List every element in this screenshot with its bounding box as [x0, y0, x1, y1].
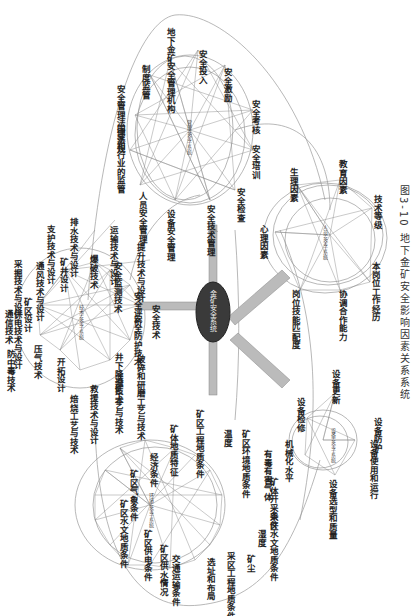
technology-center-label: 技术安全子系统	[78, 305, 83, 340]
node-human-skill-grade: 技术等级	[372, 195, 381, 217]
node-tech-drainage: 排水技术与设计	[68, 218, 77, 258]
node-env-hydrogeology: 采区水文地质条件	[268, 513, 277, 563]
management-center-label: 管理安全子系统	[186, 120, 191, 155]
node-tech-roasting: 焙烧工艺与技术	[68, 395, 77, 435]
node-equip-selection: 设备选型和质量	[327, 480, 336, 520]
node-equip-update: 设备更新	[330, 370, 339, 392]
node-human-experience: 本岗位工作经历	[370, 262, 379, 302]
environment-center-label: 环境安全子系统	[148, 493, 153, 528]
node-mgmt-incentive: 安全激励	[222, 68, 231, 90]
node-human-coordination: 协调合作能力	[337, 290, 346, 322]
node-mgmt-investment: 安全投入	[197, 50, 206, 74]
node-human-skill-match: 岗位技能匹配度	[290, 290, 299, 330]
figure-caption: 图3-10 地下金矿安全影响因素关系系统	[396, 185, 411, 401]
node-env-mining-conditions: 矿体开采条件	[268, 478, 277, 518]
node-env-orebody: 矿体地质特征	[168, 425, 177, 465]
node-env-temperature: 温度	[222, 430, 231, 452]
node-equip-maintenance: 设备检修	[295, 398, 304, 420]
node-tech-mining: 采掘技术与设计	[12, 260, 21, 300]
node-mgmt-system: 制度监管	[140, 65, 149, 87]
node-tech-hoisting: 提升技术与设计	[135, 243, 144, 283]
node-mgmt-regulations: 安全管理法律法规	[115, 85, 124, 125]
node-tech-support: 支护技术与设计	[45, 225, 54, 265]
node-human-education: 教育因素	[337, 160, 346, 182]
node-human-psychology: 心理因素	[258, 225, 267, 247]
node-tech-compressed-air: 压气技术	[32, 345, 41, 377]
equipment-center-label: 设备安全子系统	[330, 428, 335, 463]
node-tech-area-design: 矿区设计	[22, 298, 31, 330]
node-env-siting: 选址和布局	[205, 558, 214, 598]
node-env-engineering-geology: 矿区工程地质条件	[194, 410, 203, 460]
node-tech-development: 开拓设计	[55, 358, 64, 398]
node-tech-blasting: 爆破技术	[88, 255, 97, 277]
node-env-area-hydrogeology: 矿区水文地质条件	[118, 500, 127, 550]
node-env-dust: 矿尘	[245, 555, 254, 577]
node-mgmt-equipment: 设备安全管理	[165, 210, 174, 242]
node-mgmt-inspection: 安全检查	[235, 188, 244, 210]
node-env-mining-engineering: 采区工程地质条件	[225, 552, 234, 602]
node-equip-protection: 设备防护	[372, 418, 381, 440]
node-tech-ventilation: 通风技术与设计	[34, 262, 43, 302]
main-node-label: 金矿安全系统	[209, 290, 216, 332]
node-tech-evaluation: 安全评价	[132, 292, 141, 314]
node-mgmt-training: 安全培训	[250, 145, 259, 167]
node-tech-rescue: 救援技术与设计	[88, 385, 97, 435]
node-mgmt-agency: 地下金矿安全管理机构	[165, 28, 174, 68]
node-env-climate: 矿区气象条件	[128, 470, 137, 510]
node-mgmt-personnel: 人员安全管理	[137, 192, 146, 224]
node-tech-protection: 安全防护技术	[132, 315, 141, 355]
node-tech-transport: 运输技术与设计	[108, 226, 117, 266]
node-env-power-supply: 矿区供电条件	[142, 530, 151, 570]
node-mgmt-tech-management: 安全技术管理	[205, 205, 214, 237]
node-tech-communication: 通信技术	[3, 310, 12, 342]
node-tech-safety: 安全技术	[150, 305, 159, 327]
node-tech-power: 供电技术与设计	[12, 310, 21, 350]
human-center-label: 人员安全子系统	[322, 225, 327, 260]
node-env-economy: 经济条件	[148, 453, 157, 485]
diagram-canvas	[0, 0, 413, 616]
node-equip-mechanization: 机械化水平	[283, 440, 292, 472]
node-tech-crushing: 破碎和研磨工艺与技术	[135, 355, 144, 405]
node-env-humidity: 湿度	[256, 530, 265, 552]
node-human-physiology: 生理因素	[288, 168, 297, 190]
node-env-transport: 交通运输条件	[170, 555, 179, 595]
node-mgmt-assessment: 安全考核	[250, 100, 259, 122]
node-tech-mine-design: 矿井设计	[58, 258, 67, 280]
node-env-water-supply: 矿区供水情况	[158, 545, 167, 585]
node-env-environmental-geology: 矿区环境地质条件	[240, 430, 249, 480]
node-tech-monitoring: 安全监测技术	[112, 262, 121, 302]
node-tech-beneficiation: 选矿工艺与技术	[113, 375, 122, 415]
